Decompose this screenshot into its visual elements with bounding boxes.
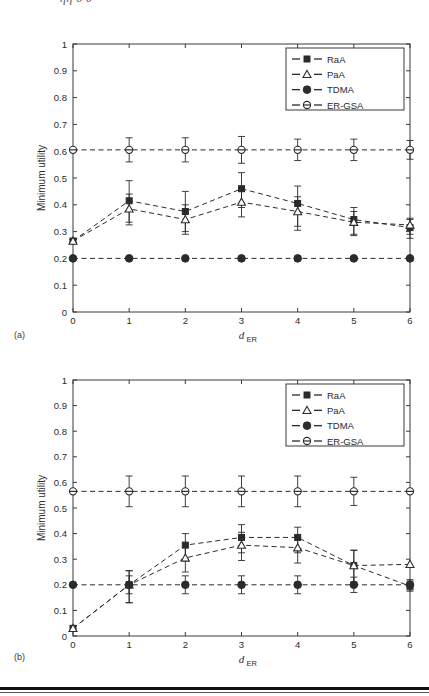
y-tick-label: 0 xyxy=(62,631,67,642)
data-point-paa xyxy=(294,208,302,215)
y-tick-label: 0.1 xyxy=(54,605,67,616)
legend-label: TDMA xyxy=(327,84,355,95)
x-tick-label: 4 xyxy=(295,639,300,650)
x-tick-label: 0 xyxy=(70,639,75,650)
y-tick-label: 0.8 xyxy=(54,92,67,103)
x-tick-label: 5 xyxy=(351,639,356,650)
legend: RaAPaATDMAER-GSA xyxy=(286,384,404,447)
figure-page: ηη δ δ 00.10.20.30.40.50.60.70.80.910123… xyxy=(0,0,429,696)
series-er-gsa xyxy=(69,136,413,163)
x-tick-label: 5 xyxy=(351,315,356,326)
data-point-paa xyxy=(238,198,246,205)
data-point-tdma xyxy=(406,255,414,263)
plot-area-a: 00.10.20.30.40.50.60.70.80.910123456Mini… xyxy=(0,14,429,354)
legend-label: ER-GSA xyxy=(327,436,364,447)
legend-label: RaA xyxy=(327,390,346,401)
x-axis-title: dER xyxy=(239,329,258,344)
legend-label: PaA xyxy=(327,69,346,80)
data-point-tdma xyxy=(406,581,414,589)
footer-divider-thick xyxy=(0,687,429,690)
y-tick-label: 0 xyxy=(62,307,67,318)
x-tick-label: 0 xyxy=(70,315,75,326)
plot-area-b: 00.10.20.30.40.50.60.70.80.910123456Mini… xyxy=(0,356,429,676)
data-point-tdma xyxy=(238,255,246,263)
x-tick-label: 3 xyxy=(239,639,244,650)
data-point-paa xyxy=(238,541,246,548)
y-tick-label: 1 xyxy=(62,375,67,386)
legend-marker-tdma xyxy=(303,422,311,430)
cropped-header-label: ηη δ δ xyxy=(60,0,92,6)
y-tick-label: 0.2 xyxy=(54,253,67,264)
data-point-tdma xyxy=(182,255,190,263)
series-tdma xyxy=(69,255,414,263)
x-tick-label: 1 xyxy=(127,639,132,650)
y-axis-title: Minimum utility xyxy=(36,145,47,211)
footer-divider-thin xyxy=(0,692,429,693)
series-paa xyxy=(69,190,414,244)
x-axis-title-main: d xyxy=(239,329,245,341)
series-er-gsa xyxy=(69,476,413,507)
y-tick-label: 0.5 xyxy=(54,503,67,514)
x-axis-title-sub: ER xyxy=(247,659,258,668)
data-point-paa xyxy=(294,544,302,551)
legend-label: RaA xyxy=(327,54,346,65)
chart-panel-b: 00.10.20.30.40.50.60.70.80.910123456Mini… xyxy=(0,356,429,676)
y-tick-label: 0.4 xyxy=(54,199,67,210)
data-point-tdma xyxy=(69,581,77,589)
data-point-paa xyxy=(125,205,133,212)
x-tick-label: 3 xyxy=(239,315,244,326)
x-tick-label: 6 xyxy=(407,639,412,650)
y-tick-label: 0.9 xyxy=(54,65,67,76)
data-point-tdma xyxy=(125,581,133,589)
x-axis-title-main: d xyxy=(239,653,245,665)
x-tick-label: 4 xyxy=(295,315,300,326)
legend-marker-tdma xyxy=(303,86,311,94)
legend-marker-raa xyxy=(304,56,310,62)
y-tick-label: 0.3 xyxy=(54,226,67,237)
legend-label: TDMA xyxy=(327,420,355,431)
x-tick-label: 1 xyxy=(127,315,132,326)
panel-a-label: (a) xyxy=(14,330,25,340)
y-axis-title: Minimum utility xyxy=(36,475,47,541)
y-tick-label: 0.1 xyxy=(54,280,67,291)
chart-panel-a: 00.10.20.30.40.50.60.70.80.910123456Mini… xyxy=(0,14,429,354)
legend-label: ER-GSA xyxy=(327,100,364,111)
x-tick-label: 6 xyxy=(407,315,412,326)
legend-label: PaA xyxy=(327,405,346,416)
data-point-tdma xyxy=(350,255,358,263)
y-tick-label: 0.6 xyxy=(54,146,67,157)
legend: RaAPaATDMAER-GSA xyxy=(286,48,404,111)
x-tick-label: 2 xyxy=(183,639,188,650)
panel-b-label: (b) xyxy=(14,652,25,662)
y-tick-label: 0.7 xyxy=(54,119,67,130)
x-tick-label: 2 xyxy=(183,315,188,326)
data-point-tdma xyxy=(294,255,302,263)
data-point-tdma xyxy=(350,581,358,589)
y-tick-label: 0.7 xyxy=(54,451,67,462)
y-tick-label: 0.2 xyxy=(54,579,67,590)
y-tick-label: 0.4 xyxy=(54,528,67,539)
x-axis-title: dER xyxy=(239,653,258,668)
cropped-header-text: ηη δ δ xyxy=(0,0,429,9)
y-tick-label: 0.5 xyxy=(54,173,67,184)
y-tick-label: 0.3 xyxy=(54,554,67,565)
data-point-tdma xyxy=(69,255,77,263)
y-tick-label: 0.8 xyxy=(54,426,67,437)
x-axis-title-sub: ER xyxy=(247,335,258,344)
y-tick-label: 1 xyxy=(62,39,67,50)
legend-marker-raa xyxy=(304,392,310,398)
data-point-tdma xyxy=(294,581,302,589)
y-tick-label: 0.6 xyxy=(54,477,67,488)
data-point-tdma xyxy=(238,581,246,589)
data-point-tdma xyxy=(125,255,133,263)
data-point-tdma xyxy=(182,581,190,589)
y-tick-label: 0.9 xyxy=(54,400,67,411)
